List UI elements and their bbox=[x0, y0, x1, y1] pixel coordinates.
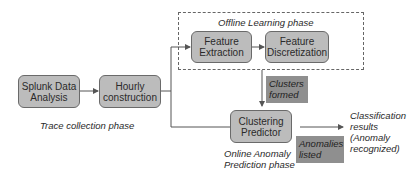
node-label-line2: Discretization bbox=[267, 47, 327, 58]
output-line1: Classification bbox=[350, 110, 406, 121]
clusters-formed-note: Clusters formed bbox=[266, 76, 308, 103]
node-label-line1: Feature bbox=[199, 36, 243, 47]
feature-extraction-node: Feature Extraction bbox=[191, 31, 252, 63]
output-line2: results bbox=[350, 121, 406, 132]
note-line1: Clusters bbox=[269, 78, 305, 89]
anomalies-listed-note: Anomalies listed bbox=[296, 136, 344, 163]
node-label-line1: Clustering bbox=[238, 116, 283, 127]
output-line3: (Anomaly bbox=[350, 132, 406, 143]
phase-label-line2: Prediction phase bbox=[224, 159, 295, 170]
node-label-line2: Extraction bbox=[199, 47, 243, 58]
node-label-line1: Hourly bbox=[103, 81, 157, 92]
classification-results-label: Classification results (Anomaly recogniz… bbox=[350, 110, 406, 154]
phase-label-line1: Online Anomaly bbox=[224, 148, 295, 159]
feature-discretization-node: Feature Discretization bbox=[265, 31, 329, 63]
online-anomaly-prediction-phase-label: Online Anomaly Prediction phase bbox=[224, 148, 295, 170]
clustering-predictor-node: Clustering Predictor bbox=[230, 110, 292, 143]
node-label-line2: Analysis bbox=[22, 92, 76, 103]
note-line2: formed bbox=[269, 89, 305, 100]
trace-collection-phase-label: Trace collection phase bbox=[40, 120, 134, 131]
note-line1: Anomalies bbox=[299, 138, 341, 149]
node-label-line1: Splunk Data bbox=[22, 81, 76, 92]
note-line2: listed bbox=[299, 149, 341, 160]
node-label-line2: Predictor bbox=[238, 127, 283, 138]
node-label-line1: Feature bbox=[267, 36, 327, 47]
output-line4: recognized) bbox=[350, 143, 406, 154]
node-label-line2: construction bbox=[103, 92, 157, 103]
splunk-data-analysis-node: Splunk Data Analysis bbox=[18, 75, 80, 108]
hourly-construction-node: Hourly construction bbox=[99, 75, 161, 108]
